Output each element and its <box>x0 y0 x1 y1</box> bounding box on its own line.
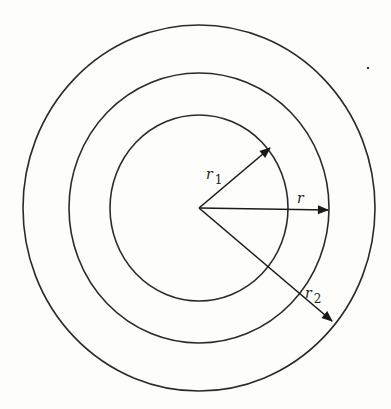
speck-dot <box>367 67 369 69</box>
vector-r2 <box>199 208 332 321</box>
label-r2: r2 <box>305 285 321 306</box>
label-r1: r1 <box>206 166 222 187</box>
concentric-circles-diagram: r1 r r2 <box>0 0 391 409</box>
vector-r <box>199 208 328 210</box>
label-r: r <box>297 190 305 206</box>
